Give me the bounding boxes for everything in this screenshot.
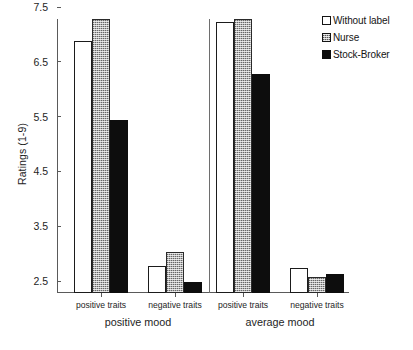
legend-label: Nurse: [333, 32, 359, 43]
bar: [92, 19, 110, 293]
x-group-label: positive mood: [105, 316, 172, 328]
legend-item: Without label: [322, 12, 412, 29]
legend-swatch-icon: [322, 33, 331, 42]
y-tick-label: 3.5: [33, 220, 57, 232]
y-tick-label: 6.5: [33, 56, 57, 68]
y-tick-label: 2.5: [33, 275, 57, 287]
legend-label: Without label: [333, 15, 390, 26]
bar: [326, 274, 344, 293]
bar-chart-figure: Ratings (1-9) 2.53.54.55.56.57.5 positiv…: [0, 0, 413, 350]
bar: [166, 252, 184, 293]
bar: [252, 74, 270, 293]
legend-item: Stock-Broker: [322, 46, 412, 63]
bar: [216, 22, 234, 293]
y-tick-label: 5.5: [33, 111, 57, 123]
legend-label: Stock-Broker: [333, 49, 390, 60]
x-group-label: average mood: [245, 316, 314, 328]
x-tick-mark: [243, 293, 244, 297]
y-tick-mark: [57, 281, 61, 282]
y-tick-mark: [57, 116, 61, 117]
group-separator: [209, 19, 210, 293]
x-tick-label: positive traits: [218, 300, 268, 310]
y-tick-mark: [57, 61, 61, 62]
x-tick-label: positive traits: [76, 300, 126, 310]
x-tick-mark: [101, 293, 102, 297]
y-tick-mark: [57, 171, 61, 172]
x-tick-label: negative traits: [148, 300, 202, 310]
x-tick-label: negative traits: [290, 300, 344, 310]
y-tick-label: 4.5: [33, 165, 57, 177]
bar: [148, 266, 166, 293]
x-tick-mark: [175, 293, 176, 297]
x-tick-mark: [317, 293, 318, 297]
legend-swatch-icon: [322, 16, 331, 25]
bar: [110, 120, 128, 293]
bar: [308, 277, 326, 293]
plot-area: 2.53.54.55.56.57.5 positive traitsnegati…: [57, 19, 349, 293]
bar: [184, 282, 202, 293]
y-axis-line: [57, 19, 58, 293]
bar: [290, 268, 308, 293]
chart-legend: Without labelNurseStock-Broker: [322, 12, 412, 63]
legend-item: Nurse: [322, 29, 412, 46]
y-axis-label: Ratings (1-9): [16, 84, 28, 224]
legend-swatch-icon: [322, 50, 331, 59]
bar: [234, 19, 252, 293]
y-tick-mark: [57, 7, 61, 8]
bar: [74, 41, 92, 293]
y-tick-mark: [57, 226, 61, 227]
y-tick-label: 7.5: [33, 1, 57, 13]
